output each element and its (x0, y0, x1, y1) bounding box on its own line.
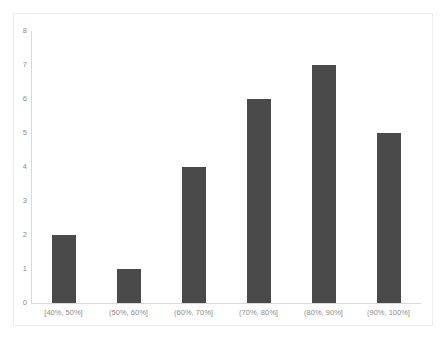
y-tick-label-5: 5 (13, 129, 27, 137)
y-tick-label-0: 0 (13, 299, 27, 307)
bar (377, 133, 401, 303)
x-tick-label: (50%, 60%] (97, 308, 161, 318)
x-tick-label: (60%, 70%] (162, 308, 226, 318)
y-tick-label-1: 1 (13, 265, 27, 273)
category-axis-line (31, 303, 421, 304)
bar (117, 269, 141, 303)
bar-chart-figure: 012345678 [40%, 50%](50%, 60%](60%, 70%]… (0, 0, 446, 339)
x-tick-label: [40%, 50%] (32, 308, 96, 318)
bar (312, 65, 336, 303)
x-tick-label: (80%, 90%] (292, 308, 356, 318)
y-tick-label-3: 3 (13, 197, 27, 205)
x-axis-tick-labels: [40%, 50%](50%, 60%](60%, 70%](70%, 80%]… (31, 308, 421, 322)
y-tick-label-8: 8 (13, 27, 27, 35)
bar (182, 167, 206, 303)
y-tick-label-6: 6 (13, 95, 27, 103)
x-tick-label: (70%, 80%] (227, 308, 291, 318)
chart-plot-area (31, 31, 421, 303)
y-tick-label-2: 2 (13, 231, 27, 239)
x-tick-label: (90%, 100%] (357, 308, 421, 318)
bar (247, 99, 271, 303)
y-tick-label-4: 4 (13, 163, 27, 171)
y-tick-label-7: 7 (13, 61, 27, 69)
y-axis-tick-labels: 012345678 (12, 31, 27, 303)
bar (52, 235, 76, 303)
